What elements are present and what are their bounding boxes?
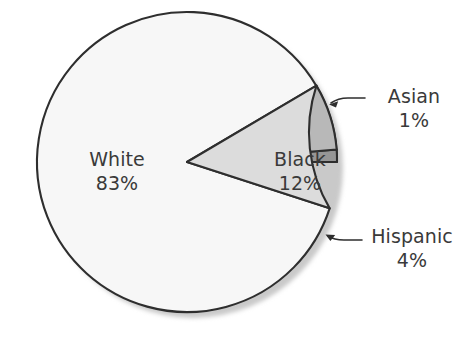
pie-label-white: White 83% [62, 148, 172, 196]
pie-label-black: Black 12% [252, 148, 348, 196]
hispanic-arrowhead-icon [326, 235, 336, 242]
pie-chart: White 83% Black 12% Asian 1% Hispanic 4% [0, 0, 467, 349]
pie-label-asian-name: Asian [366, 85, 462, 109]
pie-label-asian: Asian 1% [366, 85, 462, 133]
pie-label-hispanic: Hispanic 4% [360, 225, 464, 273]
pie-label-hispanic-value: 4% [360, 249, 464, 273]
pie-label-white-name: White [62, 148, 172, 172]
pie-label-black-value: 12% [252, 172, 348, 196]
pie-label-white-value: 83% [62, 172, 172, 196]
pie-label-black-name: Black [252, 148, 348, 172]
pie-label-asian-value: 1% [366, 109, 462, 133]
pie-label-hispanic-name: Hispanic [360, 225, 464, 249]
